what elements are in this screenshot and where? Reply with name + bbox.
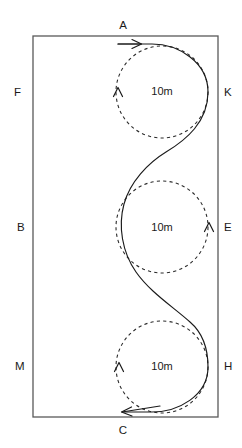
arena-marker-f: F <box>14 86 21 98</box>
radius-label-top: 10m <box>151 85 172 97</box>
arena-marker-m: M <box>15 360 25 372</box>
exit-arrow-icon <box>122 406 161 416</box>
course-diagram-svg: 10m 10m 10m A F K B E M H C <box>0 0 242 448</box>
radius-label-bottom: 10m <box>151 360 172 372</box>
arena-marker-b: B <box>17 221 25 233</box>
middle-circle-direction-arrow-icon <box>205 223 214 232</box>
arena-rectangle <box>33 36 218 417</box>
arena-marker-a: A <box>119 19 127 31</box>
radius-label-middle: 10m <box>151 221 172 233</box>
arena-marker-e: E <box>224 221 232 233</box>
arena-marker-k: K <box>224 86 232 98</box>
top-circle-direction-arrow-icon <box>114 88 123 97</box>
arena-marker-c: C <box>119 424 127 436</box>
diagram-canvas: 10m 10m 10m A F K B E M H C <box>0 0 242 448</box>
entry-arrow-icon <box>118 40 142 49</box>
arena-marker-h: H <box>224 360 232 372</box>
